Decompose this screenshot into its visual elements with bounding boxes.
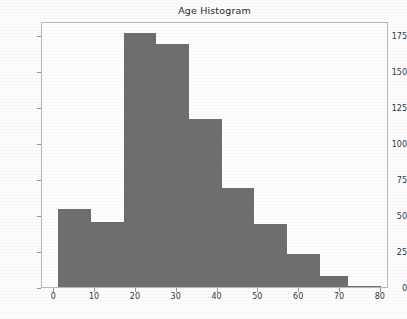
histogram-bar	[222, 188, 255, 287]
x-axis-tick-label: 10	[79, 292, 109, 301]
x-axis-tick-mark	[339, 288, 340, 292]
x-axis-tick-label: 40	[202, 292, 232, 301]
x-axis-tick-label: 80	[365, 292, 395, 301]
x-axis-tick-label: 30	[161, 292, 191, 301]
x-axis-tick-label: 70	[324, 292, 354, 301]
histogram-bar	[254, 224, 287, 287]
histogram-figure: Age Histogram 0255075100125150175 010203…	[0, 0, 407, 319]
histogram-bar	[58, 209, 91, 287]
histogram-bar	[156, 44, 189, 287]
histogram-bar	[124, 33, 157, 287]
x-axis-tick-mark	[380, 288, 381, 292]
x-axis-tick-mark	[257, 288, 258, 292]
x-axis-tick-label: 0	[38, 292, 68, 301]
histogram-bars	[42, 23, 387, 287]
x-axis-tick-mark	[53, 288, 54, 292]
histogram-bar	[320, 276, 349, 288]
histogram-bar	[91, 222, 124, 287]
x-axis-tick-label: 50	[242, 292, 272, 301]
x-axis-tick-label: 20	[120, 292, 150, 301]
x-axis-tick-label: 60	[283, 292, 313, 301]
x-axis-tick-mark	[94, 288, 95, 292]
histogram-bar	[287, 254, 320, 287]
x-axis-tick-mark	[176, 288, 177, 292]
histogram-bar	[348, 286, 381, 287]
histogram-bar	[189, 119, 222, 287]
x-axis-tick-mark	[217, 288, 218, 292]
x-axis-tick-mark	[135, 288, 136, 292]
plot-area	[41, 22, 388, 288]
x-axis-tick-mark	[298, 288, 299, 292]
